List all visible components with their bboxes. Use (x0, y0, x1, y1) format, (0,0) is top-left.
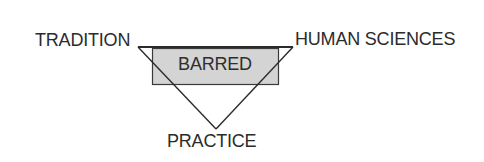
diagram-canvas: TRADITION HUMAN SCIENCES PRACTICE BARRED (0, 0, 484, 162)
vertex-label-human-sciences: HUMAN SCIENCES (295, 30, 455, 48)
barred-label: BARRED (152, 55, 278, 73)
vertex-label-practice: PRACTICE (167, 132, 256, 150)
vertex-label-tradition: TRADITION (35, 31, 130, 49)
